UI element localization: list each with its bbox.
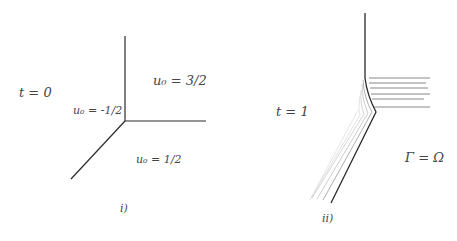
main-curve	[331, 13, 376, 203]
diagonal-ray	[71, 121, 125, 179]
region-label-left: u₀ = -1/2	[73, 104, 122, 117]
hatch-lines	[369, 78, 430, 107]
caption-i: i)	[120, 202, 128, 215]
region-label-gamma: Γ = Ω	[405, 150, 444, 165]
panel-ii-lines	[310, 13, 430, 203]
time-label-i: t = 0	[19, 85, 52, 100]
time-label-ii: t = 1	[276, 104, 309, 119]
diagram-canvas	[0, 0, 457, 241]
region-label-bottom: u₀ = 1/2	[136, 153, 181, 166]
caption-ii: ii)	[322, 212, 333, 225]
region-label-top-right: u₀ = 3/2	[153, 73, 207, 88]
